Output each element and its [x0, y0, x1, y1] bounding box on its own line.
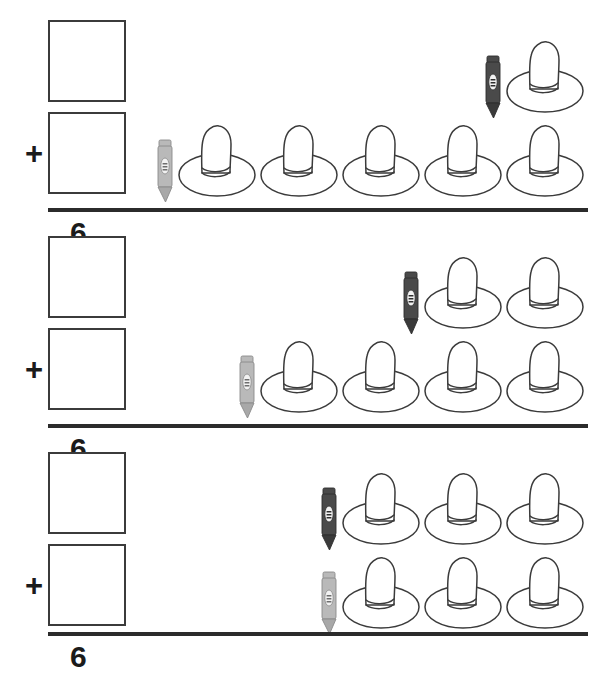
hat-item: [338, 552, 424, 636]
addition-problem: +: [0, 236, 601, 436]
hat-icon: [502, 120, 588, 204]
sum-value: 6: [70, 640, 87, 674]
first-addend-box[interactable]: [48, 236, 126, 318]
crayon-icon: [400, 270, 422, 336]
hat-item: [502, 120, 588, 204]
second-addend-box[interactable]: [48, 328, 126, 410]
hat-icon: [256, 120, 342, 204]
plus-operator: +: [22, 358, 46, 382]
hat-icon: [420, 252, 506, 336]
hat-item: [256, 336, 342, 420]
light-crayon-marker: [236, 336, 258, 420]
dark-crayon-marker: [482, 36, 504, 120]
hat-item: [420, 552, 506, 636]
worksheet-page: +: [0, 0, 601, 690]
sum-rule-line: [48, 208, 588, 212]
hat-icon: [174, 120, 260, 204]
second-addend-box[interactable]: [48, 544, 126, 626]
first-addend-hat-row: [482, 36, 588, 120]
hat-icon: [256, 336, 342, 420]
hat-item: [502, 468, 588, 552]
hat-icon: [502, 552, 588, 636]
hat-icon: [502, 252, 588, 336]
hat-item: [256, 120, 342, 204]
hat-icon: [338, 120, 424, 204]
first-addend-hat-row: [318, 468, 588, 552]
hat-item: [420, 336, 506, 420]
hat-icon: [502, 336, 588, 420]
problem-operands-column: +: [0, 20, 130, 220]
plus-operator: +: [22, 574, 46, 598]
hat-item: [420, 468, 506, 552]
crayon-icon: [236, 354, 258, 420]
problem-operands-column: +: [0, 236, 130, 436]
hat-icon: [502, 468, 588, 552]
light-crayon-marker: [318, 552, 340, 636]
dark-crayon-marker: [318, 468, 340, 552]
first-addend-hat-row: [400, 252, 588, 336]
first-addend-box[interactable]: [48, 20, 126, 102]
dark-crayon-marker: [400, 252, 422, 336]
hat-item: [502, 552, 588, 636]
second-addend-hat-row: [154, 120, 588, 204]
light-crayon-marker: [154, 120, 176, 204]
hat-icon: [338, 468, 424, 552]
hat-icon: [420, 552, 506, 636]
hat-icon: [338, 336, 424, 420]
addition-problem: +: [0, 452, 601, 652]
second-addend-hat-row: [318, 552, 588, 636]
hat-item: [420, 120, 506, 204]
hat-icon: [420, 468, 506, 552]
hat-item: [502, 252, 588, 336]
hat-item: [338, 120, 424, 204]
crayon-icon: [482, 54, 504, 120]
second-addend-box[interactable]: [48, 112, 126, 194]
hat-item: [338, 468, 424, 552]
hat-item: [420, 252, 506, 336]
hat-icon: [420, 336, 506, 420]
sum-rule-line: [48, 424, 588, 428]
crayon-icon: [318, 570, 340, 636]
first-addend-box[interactable]: [48, 452, 126, 534]
addition-problem: +: [0, 20, 601, 220]
crayon-icon: [318, 486, 340, 552]
hat-icon: [420, 120, 506, 204]
hat-item: [502, 36, 588, 120]
crayon-icon: [154, 138, 176, 204]
sum-rule-line: [48, 632, 588, 636]
second-addend-hat-row: [236, 336, 588, 420]
hat-item: [502, 336, 588, 420]
hat-icon: [338, 552, 424, 636]
hat-item: [174, 120, 260, 204]
hat-item: [338, 336, 424, 420]
plus-operator: +: [22, 142, 46, 166]
problem-operands-column: +: [0, 452, 130, 652]
hat-icon: [502, 36, 588, 120]
